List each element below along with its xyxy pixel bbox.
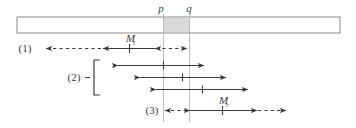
figure-canvas: p q (1) M l (2) (3) M r bbox=[0, 0, 356, 128]
shaded-region bbox=[163, 18, 189, 32]
row-2-group: (2) bbox=[68, 60, 248, 95]
label-p: p bbox=[157, 2, 164, 14]
row-2-bracket bbox=[94, 60, 100, 95]
measure-label-left-subscript: l bbox=[133, 39, 135, 47]
measure-label-right-subscript: r bbox=[226, 101, 229, 109]
row-1-group: (1) M l bbox=[19, 32, 187, 55]
diagram-svg: p q (1) M l (2) (3) M r bbox=[0, 0, 356, 128]
row-3-group: (3) M r bbox=[146, 94, 286, 117]
row-label-3: (3) bbox=[146, 104, 159, 117]
row-label-1: (1) bbox=[19, 42, 32, 55]
bar-group bbox=[17, 17, 340, 33]
label-q: q bbox=[186, 2, 192, 14]
row-label-2: (2) bbox=[68, 71, 81, 84]
